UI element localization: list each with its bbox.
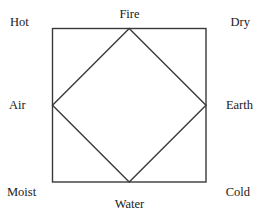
label-quality-cold: Cold bbox=[226, 186, 250, 199]
inscribed-diamond bbox=[53, 29, 207, 183]
outer-square bbox=[53, 29, 207, 183]
label-element-fire: Fire bbox=[0, 8, 259, 21]
four-elements-diagram: Hot Dry Moist Cold Fire Air Earth Water bbox=[0, 0, 259, 217]
label-quality-moist: Moist bbox=[7, 186, 36, 199]
diagram-figure bbox=[0, 0, 259, 217]
label-element-air: Air bbox=[9, 99, 26, 112]
label-element-water: Water bbox=[0, 198, 259, 211]
label-element-earth: Earth bbox=[226, 99, 253, 112]
